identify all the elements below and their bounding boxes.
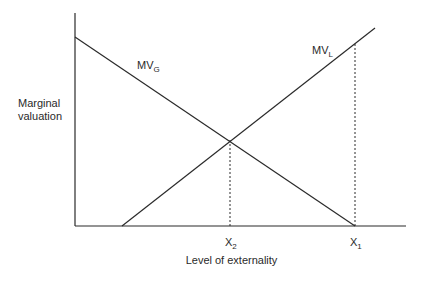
- tick-x1: X1: [350, 236, 362, 253]
- label-mv-l-text: MV: [312, 44, 329, 56]
- tick-x1-subscript: 1: [357, 242, 361, 251]
- curve-mv-g: [75, 37, 355, 226]
- y-axis-label: Marginal valuation: [18, 97, 78, 123]
- tick-x2-subscript: 2: [232, 242, 236, 251]
- label-mv-l: MVL: [312, 44, 333, 61]
- label-mv-l-subscript: L: [329, 50, 333, 59]
- y-axis-label-line1: Marginal: [18, 97, 78, 110]
- y-axis-label-line2: valuation: [18, 110, 78, 123]
- x-axis-label: Level of externality: [0, 254, 425, 267]
- label-mv-g-subscript: G: [154, 65, 160, 74]
- tick-x2: X2: [225, 236, 237, 253]
- label-mv-g-text: MV: [137, 59, 154, 71]
- label-mv-g: MVG: [137, 59, 160, 76]
- curve-mv-l: [122, 28, 375, 226]
